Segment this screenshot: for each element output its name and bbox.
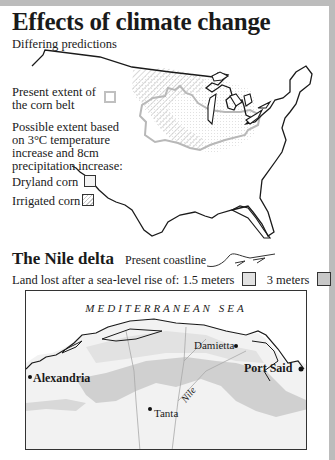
irrigated-swatch (82, 194, 94, 206)
mediterranean-sea-label: MEDITERRANEAN SEA (26, 302, 306, 314)
present-coastline-label: Present coastline (125, 253, 206, 268)
city-alexandria: Alexandria (33, 371, 90, 386)
city-port-said: Port Said (244, 361, 292, 376)
legend-possible-line1: Possible extent based (12, 120, 119, 134)
legend-present-line2: the corn belt (12, 98, 74, 112)
city-tanta: Tanta (154, 407, 178, 419)
loss-3m-swatch (317, 272, 331, 286)
nile-delta-title: The Nile delta (12, 249, 114, 269)
legend-possible-line3: increase and 8cm (12, 146, 99, 160)
land-lost-1-5m-text: Land lost after a sea-level rise of: 1.5… (12, 273, 234, 287)
frame-border-right (329, 0, 335, 460)
city-damietta: Damietta (194, 339, 234, 351)
page-title: Effects of climate change (12, 8, 270, 36)
present-extent-swatch (104, 91, 116, 103)
dryland-swatch (84, 175, 96, 187)
land-lost-3m-text: 3 meters (267, 273, 310, 287)
legend-possible-line4: precipitation increase: (12, 159, 123, 173)
florida (232, 206, 270, 238)
legend-possible-line2: on 3°C temperature (12, 133, 110, 147)
legend-present-line1: Present extent of (12, 85, 96, 99)
present-coastline-symbol (205, 248, 277, 270)
land-lost-label: Land lost after a sea-level rise of: 1.5… (12, 272, 331, 288)
loss-1-5m-swatch (242, 272, 256, 286)
nile-delta-map: MEDITERRANEAN SEA Alexandria Damietta Po… (25, 290, 307, 450)
frame-border-top (0, 0, 335, 6)
legend-irrigated: Irrigated corn (12, 194, 80, 208)
legend-dryland: Dryland corn (12, 175, 78, 189)
